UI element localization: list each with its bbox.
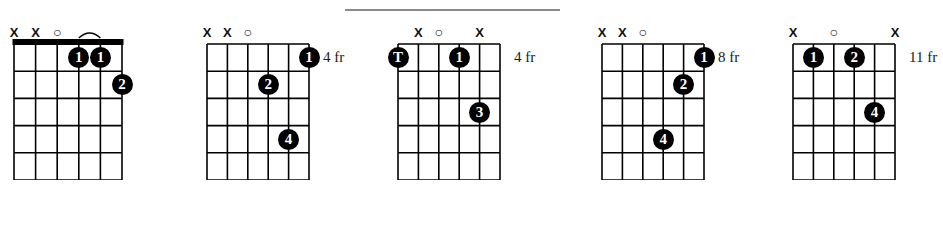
nut-bar bbox=[13, 39, 124, 45]
finger-dot: 4 bbox=[278, 129, 299, 150]
finger-dot: 2 bbox=[258, 74, 279, 95]
finger-dot: 2 bbox=[112, 74, 133, 95]
fretboard-grid: 124 bbox=[602, 44, 704, 180]
fret-position-label: 8 fr bbox=[718, 50, 739, 65]
fret-position-label: 4 fr bbox=[323, 50, 344, 65]
fretboard-grid: 124 bbox=[207, 44, 309, 180]
finger-dot: 4 bbox=[653, 129, 674, 150]
finger-dot: 1 bbox=[694, 47, 715, 68]
fret-position-label: 11 fr bbox=[909, 50, 937, 65]
fret-position-label: 4 fr bbox=[514, 50, 535, 65]
finger-dot: 3 bbox=[469, 102, 490, 123]
chord-diagram-strip: XX○112XX○1244 frX○XT134 frXX○1248 frX○X1… bbox=[0, 0, 943, 229]
fretboard-grid: T13 bbox=[398, 44, 500, 180]
finger-dot: 1 bbox=[803, 47, 824, 68]
finger-dot: 2 bbox=[844, 47, 865, 68]
barre-arc bbox=[79, 33, 101, 38]
finger-dot: 1 bbox=[449, 47, 470, 68]
fretboard-grid: 112 bbox=[14, 44, 122, 180]
finger-dot: 1 bbox=[90, 47, 111, 68]
fretboard-grid: 124 bbox=[793, 44, 895, 180]
finger-dot: T bbox=[388, 47, 409, 68]
finger-dot: 4 bbox=[864, 102, 885, 123]
finger-dot: 1 bbox=[299, 47, 320, 68]
